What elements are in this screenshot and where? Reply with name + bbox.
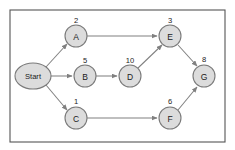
node-label-g: G [201,72,208,82]
activity-network-graph: StartA2B5C1D10E3F6G8 [0,0,235,150]
node-label-a: A [73,32,79,42]
node-weight-a: 2 [74,16,78,25]
node-weight-c: 1 [74,97,78,106]
node-weight-d: 10 [126,56,134,65]
node-weight-e: 3 [168,16,172,25]
node-label-e: E [167,32,173,42]
node-label-start: Start [25,72,42,81]
diagram-canvas: StartA2B5C1D10E3F6G8 [0,0,235,150]
node-start[interactable]: Start [15,63,51,89]
node-label-b: B [82,72,88,82]
node-label-d: D [127,72,133,82]
node-weight-g: 8 [202,55,206,64]
node-label-c: C [73,114,79,124]
node-label-f: F [167,114,172,124]
node-weight-b: 5 [83,56,87,65]
node-weight-f: 6 [168,97,172,106]
